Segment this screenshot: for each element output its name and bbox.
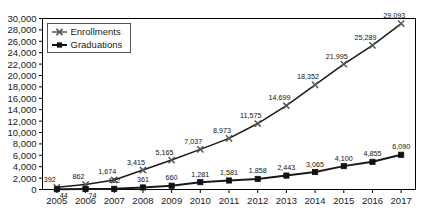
data-point-marker <box>255 120 261 126</box>
data-point-label: 14,699 <box>268 93 290 102</box>
data-point-marker <box>399 152 404 157</box>
x-axis-tick-label: 2011 <box>219 195 239 206</box>
data-point-label: 1,581 <box>220 168 238 177</box>
y-axis-tick-label: 12,000 <box>7 116 36 127</box>
x-axis-tick-label: 2016 <box>362 195 383 206</box>
x-axis-tick-label: 2009 <box>161 195 182 206</box>
legend-label: Enrollments <box>71 26 121 37</box>
y-axis-tick-labels: 02,0004,0006,0008,00010,00012,00014,0001… <box>7 13 36 195</box>
data-point-marker <box>54 187 59 192</box>
data-point-label: 1,281 <box>191 170 209 179</box>
data-point-marker <box>83 186 88 191</box>
data-point-label: 25,289 <box>354 33 376 42</box>
data-point-label: 3,065 <box>306 160 324 169</box>
data-point-label: 29,093 <box>383 11 405 20</box>
data-point-marker <box>369 42 375 48</box>
data-point-marker <box>112 186 117 191</box>
y-axis-tick-label: 14,000 <box>7 104 36 115</box>
data-point-marker <box>341 164 346 169</box>
data-point-marker <box>255 176 260 181</box>
x-axis-tick-marks <box>57 190 401 194</box>
data-point-marker <box>312 82 318 88</box>
y-axis-tick-label: 18,000 <box>7 81 36 92</box>
data-point-label: 11,575 <box>240 111 261 120</box>
data-point-label: 1,674 <box>98 167 116 176</box>
y-axis-tick-label: 22,000 <box>7 59 36 70</box>
data-point-label: 4,855 <box>363 149 381 158</box>
y-axis-tick-label: 26,000 <box>7 36 36 47</box>
legend-label: Graduations <box>71 39 123 50</box>
y-axis-tick-label: 2,000 <box>13 173 37 184</box>
data-point-label: 21,995 <box>326 52 348 61</box>
y-axis-tick-label: 30,000 <box>7 13 36 24</box>
data-point-marker <box>169 183 174 188</box>
x-axis-tick-label: 2007 <box>104 195 125 206</box>
data-point-label: 660 <box>166 173 178 182</box>
y-axis-tick-label: 28,000 <box>7 24 36 35</box>
data-point-marker <box>140 185 145 190</box>
data-point-label: 122 <box>108 176 120 185</box>
data-point-label: 3,415 <box>127 158 145 167</box>
data-point-label: 6,090 <box>392 142 410 151</box>
y-axis-tick-label: 4,000 <box>13 161 37 172</box>
data-point-label: 862 <box>73 172 85 181</box>
data-point-label: 44 <box>60 191 68 200</box>
x-axis-tick-label: 2017 <box>391 195 412 206</box>
data-point-label: 392 <box>44 175 56 184</box>
y-axis-tick-label: 6,000 <box>13 150 37 161</box>
data-point-marker <box>226 135 232 141</box>
data-point-marker <box>341 61 347 67</box>
x-axis-tick-label: 2014 <box>305 195 326 206</box>
data-point-label: 7,037 <box>184 137 202 146</box>
chart-container: 02,0004,0006,0008,00010,00012,00014,0001… <box>0 0 424 219</box>
legend-marker-square-icon <box>57 42 62 47</box>
data-point-label: 4,100 <box>335 154 353 163</box>
chart-legend: EnrollmentsGraduations <box>48 24 131 53</box>
line-chart: 02,0004,0006,0008,00010,00012,00014,0001… <box>0 0 424 219</box>
y-axis-tick-marks <box>39 19 43 190</box>
data-point-marker <box>226 178 231 183</box>
y-axis-tick-label: 8,000 <box>13 138 37 149</box>
x-axis-tick-label: 2012 <box>247 195 268 206</box>
data-point-marker <box>398 21 404 27</box>
y-axis-tick-label: 24,000 <box>7 47 36 58</box>
data-point-label: 8,973 <box>213 126 231 135</box>
data-point-label: 74 <box>89 191 97 200</box>
data-point-label: 1,858 <box>249 166 267 175</box>
y-axis-tick-label: 20,000 <box>7 70 36 81</box>
data-point-label: 361 <box>137 175 149 184</box>
y-axis-tick-label: 0 <box>31 184 36 195</box>
data-point-label: 5,165 <box>156 148 174 157</box>
data-point-marker <box>284 173 289 178</box>
x-axis-tick-label: 2015 <box>333 195 354 206</box>
x-axis-tick-labels: 2005200620072008200920102011201220132014… <box>46 195 411 206</box>
data-point-marker <box>198 180 203 185</box>
x-axis-tick-label: 2008 <box>132 195 153 206</box>
y-axis-tick-label: 10,000 <box>7 127 36 138</box>
data-point-marker <box>370 159 375 164</box>
x-axis-tick-label: 2013 <box>276 195 297 206</box>
data-point-label: 2,443 <box>277 163 295 172</box>
data-point-marker <box>197 146 203 152</box>
data-point-label: 18,352 <box>297 72 319 81</box>
data-point-marker <box>312 169 317 174</box>
y-axis-tick-label: 16,000 <box>7 93 36 104</box>
x-axis-tick-label: 2010 <box>190 195 211 206</box>
data-point-marker <box>283 103 289 109</box>
